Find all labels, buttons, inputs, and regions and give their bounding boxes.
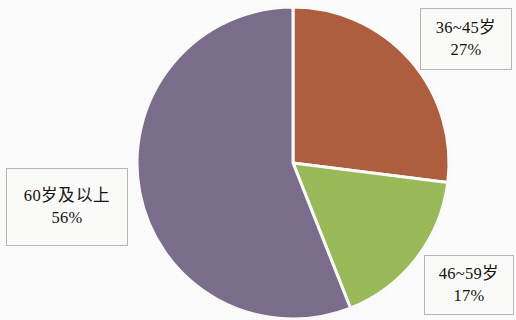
callout-label-60-plus: 60岁及以上 56% xyxy=(6,168,128,246)
pie-chart-figure: 36~45岁 27% 46~59岁 17% 60岁及以上 56% xyxy=(0,0,516,320)
callout-label-46-59: 46~59岁 17% xyxy=(424,255,514,315)
callout-percent-36-45: 27% xyxy=(450,39,481,61)
callout-category-60-plus: 60岁及以上 xyxy=(24,185,110,207)
callout-category-46-59: 46~59岁 xyxy=(439,263,500,285)
callout-percent-46-59: 17% xyxy=(453,285,484,307)
callout-percent-60-plus: 56% xyxy=(51,207,82,229)
callout-category-36-45: 36~45岁 xyxy=(436,17,497,39)
callout-label-36-45: 36~45岁 27% xyxy=(420,8,512,70)
